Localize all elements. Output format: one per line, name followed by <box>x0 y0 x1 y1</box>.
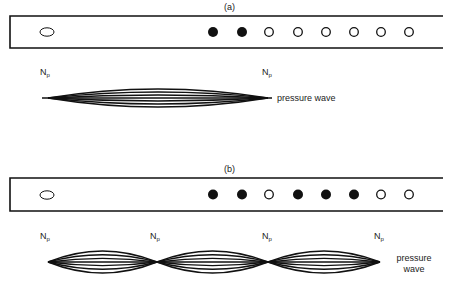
closed-hole-b-6 <box>349 190 359 200</box>
node-label-b-1: Np <box>40 232 50 242</box>
tube-b <box>10 178 443 211</box>
open-hole-a-4 <box>294 28 303 37</box>
closed-hole-a-1 <box>208 27 218 37</box>
closed-hole-b-5 <box>321 190 331 200</box>
embouchure-hole-a <box>40 28 54 36</box>
open-hole-a-7 <box>377 28 386 37</box>
node-label-a-2: Np <box>262 68 272 78</box>
pressure-wave-label-a: pressure wave <box>277 94 336 103</box>
closed-hole-b-2 <box>237 190 247 200</box>
node-label-a-1: Np <box>40 68 50 78</box>
node-label-b-3: Np <box>262 232 272 242</box>
open-hole-b-7 <box>377 190 386 199</box>
pressure-wave-label-b-line2: wave <box>391 264 437 275</box>
pressure-wave-a <box>42 89 272 107</box>
panel-a-label: (a) <box>224 3 235 12</box>
panel-b-label: (b) <box>224 165 235 174</box>
open-hole-a-8 <box>405 28 414 37</box>
open-hole-a-6 <box>350 28 359 37</box>
closed-hole-b-1 <box>208 190 218 200</box>
open-hole-b-8 <box>405 190 414 199</box>
open-hole-a-3 <box>265 28 274 37</box>
pressure-wave-b <box>48 251 380 273</box>
tube-a <box>10 16 443 48</box>
open-hole-a-5 <box>322 28 331 37</box>
closed-hole-b-4 <box>293 190 303 200</box>
closed-hole-a-2 <box>237 27 247 37</box>
node-label-b-2: Np <box>150 232 160 242</box>
node-label-b-4: Np <box>374 232 384 242</box>
open-hole-b-3 <box>265 190 274 199</box>
pressure-wave-label-b-line1: pressure <box>391 253 437 264</box>
pressure-wave-label-b: pressure wave <box>391 253 437 275</box>
embouchure-hole-b <box>40 191 54 199</box>
flute-standing-wave-diagram <box>0 0 453 286</box>
